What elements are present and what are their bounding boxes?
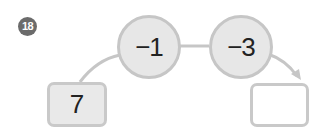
operation-circle-2: −3	[209, 15, 273, 79]
arc-op2-to-result	[268, 54, 297, 76]
arc-start-to-op1	[80, 55, 120, 82]
start-value-box: 7	[47, 82, 107, 127]
operation-label-1: −1	[135, 32, 163, 63]
answer-box[interactable]	[250, 83, 309, 127]
operation-circle-1: −1	[117, 15, 181, 79]
operation-label-2: −3	[227, 32, 255, 63]
problem-number-badge: 18	[18, 17, 37, 36]
start-value: 7	[70, 89, 84, 120]
